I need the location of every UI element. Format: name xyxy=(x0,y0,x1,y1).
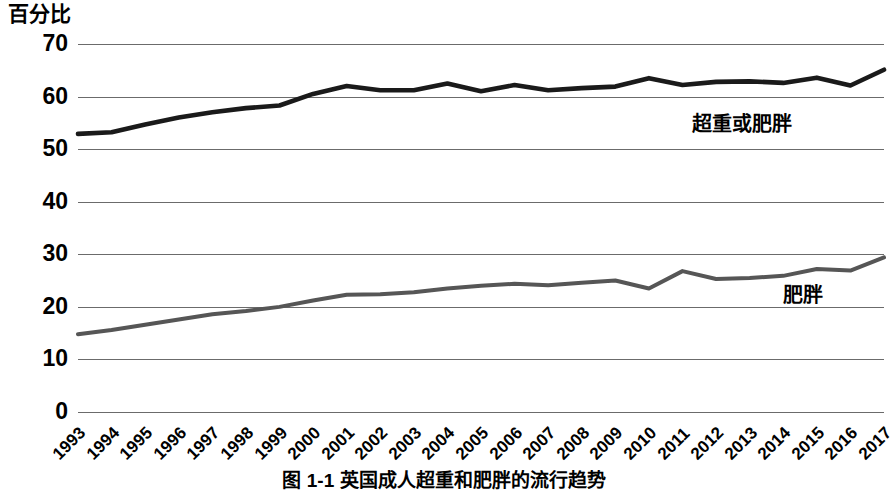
x-tick-label-1998: 1998 xyxy=(218,424,257,463)
figure-caption: 图 1-1 英国成人超重和肥胖的流行趋势 xyxy=(0,470,888,490)
x-tick-label-1996: 1996 xyxy=(150,424,189,463)
x-axis-tick-labels: 1993199419951996199719981999200020012002… xyxy=(0,414,888,476)
x-tick-label-2001: 2001 xyxy=(318,424,357,463)
series-label-obese: 肥胖 xyxy=(783,284,823,306)
x-tick-label-2000: 2000 xyxy=(285,424,324,463)
x-tick-label-2014: 2014 xyxy=(755,424,794,463)
x-tick-label-2004: 2004 xyxy=(419,424,458,463)
x-tick-label-1999: 1999 xyxy=(251,424,290,463)
series-lines xyxy=(0,0,888,430)
x-tick-label-2009: 2009 xyxy=(587,424,626,463)
x-tick-label-1995: 1995 xyxy=(117,424,156,463)
x-tick-label-2002: 2002 xyxy=(352,424,391,463)
x-tick-label-2012: 2012 xyxy=(688,424,727,463)
plot-area: 010203040506070 xyxy=(0,0,888,430)
series-label-overweight: 超重或肥胖 xyxy=(692,113,792,135)
x-tick-label-2005: 2005 xyxy=(453,424,492,463)
x-tick-label-2015: 2015 xyxy=(789,424,828,463)
x-tick-label-2011: 2011 xyxy=(654,425,693,464)
x-tick-label-2008: 2008 xyxy=(553,424,592,463)
series-line-obese xyxy=(78,257,884,334)
x-tick-label-2006: 2006 xyxy=(486,424,525,463)
x-tick-label-2013: 2013 xyxy=(721,424,760,463)
x-tick-label-2007: 2007 xyxy=(520,424,559,463)
x-tick-label-2010: 2010 xyxy=(621,424,660,463)
x-tick-label-2003: 2003 xyxy=(386,424,425,463)
x-tick-label-1997: 1997 xyxy=(184,424,223,463)
x-tick-label-1994: 1994 xyxy=(83,424,122,463)
x-tick-label-1993: 1993 xyxy=(50,424,89,463)
x-tick-label-2017: 2017 xyxy=(856,424,894,463)
x-tick-label-2016: 2016 xyxy=(822,424,861,463)
